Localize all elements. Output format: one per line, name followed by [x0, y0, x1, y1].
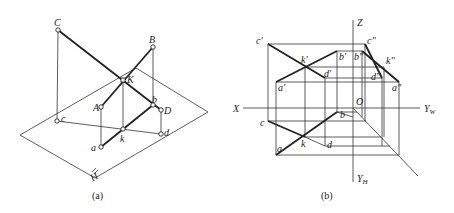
- line-kd: [305, 137, 325, 146]
- label-Z: Z: [357, 17, 363, 28]
- label-YW: YW: [424, 103, 437, 116]
- label-b2: b": [354, 51, 364, 62]
- label-d: d: [164, 127, 170, 138]
- label-b: b: [340, 109, 345, 120]
- label-a: a: [91, 142, 96, 153]
- line-cd-proj: [57, 121, 161, 134]
- label-k1: k': [301, 54, 308, 65]
- label-A: A: [92, 102, 100, 113]
- point-a: [99, 145, 103, 149]
- label-a1: a': [278, 82, 286, 93]
- projector-c: [57, 30, 58, 121]
- label-B: B: [149, 34, 155, 45]
- label-k2: k": [386, 55, 395, 66]
- point-k: [121, 127, 125, 131]
- label-b1: b': [339, 51, 347, 62]
- h-plane: [20, 68, 208, 178]
- label-c: c: [260, 117, 265, 128]
- caption-b: (b): [321, 190, 333, 202]
- axis-45-line: [353, 108, 418, 176]
- label-C: C: [54, 17, 61, 28]
- label-c1: c': [256, 35, 263, 46]
- label-k: k: [301, 138, 306, 149]
- label-c: c: [61, 113, 66, 124]
- label-a: a: [277, 143, 282, 154]
- label-b: b: [152, 94, 157, 105]
- panel-a: C B K A b D c k d a H (a): [20, 17, 208, 202]
- point-d: [159, 132, 163, 136]
- projection-diagram: C B K A b D c k d a H (a) Z X O YW YH: [0, 0, 454, 213]
- point-C: [56, 28, 60, 32]
- label-c2: c": [367, 35, 376, 46]
- point-c: [55, 119, 59, 123]
- label-H: H: [87, 170, 100, 184]
- label-YH: YH: [357, 173, 369, 186]
- point-B: [151, 45, 155, 49]
- label-k: k: [120, 133, 125, 144]
- point-K: [121, 78, 125, 82]
- label-X: X: [232, 103, 240, 114]
- point-D: [159, 108, 163, 112]
- label-K: K: [126, 74, 135, 85]
- caption-a: (a): [92, 190, 103, 202]
- label-d2: d": [371, 71, 381, 82]
- label-d1: d': [324, 68, 332, 79]
- panel-b: Z X O YW YH: [232, 17, 437, 202]
- label-D: D: [163, 105, 172, 116]
- label-a2: a": [392, 82, 402, 93]
- line-ab-proj: [101, 105, 153, 147]
- line-ck: [268, 121, 305, 137]
- label-d: d: [327, 139, 333, 150]
- point-A: [99, 105, 103, 109]
